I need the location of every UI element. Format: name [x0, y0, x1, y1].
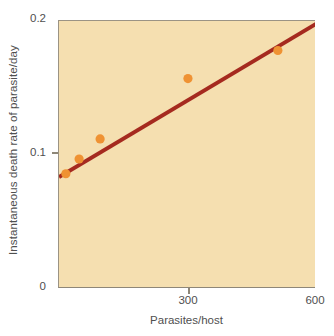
y-axis-tick-label-0: 0 [0, 280, 46, 292]
plot-area [58, 20, 315, 288]
data-point-4 [183, 74, 192, 83]
chart-figure: Instantaneous death rate of parasite/day… [0, 0, 334, 336]
data-point-2 [75, 154, 84, 163]
data-point-1 [61, 169, 70, 178]
x-axis-title: Parasites/host [58, 314, 315, 326]
y-axis-tick-label-0.1: 0.1 [0, 146, 46, 158]
x-axis-tick-label-600: 600 [295, 294, 334, 306]
data-point-3 [96, 134, 105, 143]
plot-canvas [59, 21, 315, 288]
y-axis-tick-label-0.2: 0.2 [0, 12, 46, 24]
x-axis-tick-label-300: 300 [168, 294, 208, 306]
data-point-5 [273, 46, 282, 55]
